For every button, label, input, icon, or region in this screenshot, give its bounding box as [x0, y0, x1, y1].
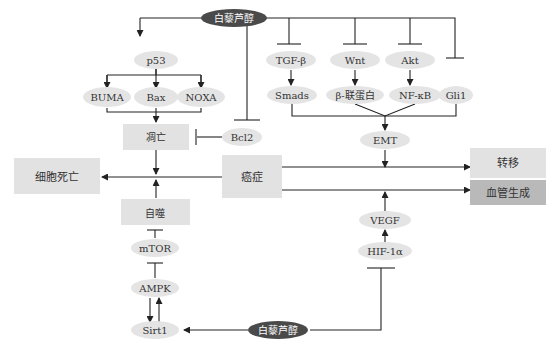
svg-text:Bax: Bax [147, 92, 166, 103]
svg-text:凋亡: 凋亡 [146, 131, 166, 143]
svg-text:mTOR: mTOR [139, 243, 171, 254]
p53-branch [107, 68, 201, 86]
node-cell-death: 细胞死亡 [14, 158, 100, 194]
node-bax: Bax [134, 87, 178, 107]
svg-text:血管生成: 血管生成 [486, 186, 530, 200]
svg-text:AMPK: AMPK [138, 283, 171, 294]
node-vegf: VEGF [359, 211, 411, 229]
svg-text:HIF-1α: HIF-1α [367, 246, 403, 257]
svg-text:转移: 转移 [497, 156, 519, 170]
node-metastasis: 转移 [470, 148, 546, 178]
svg-text:NOXA: NOXA [186, 92, 218, 103]
node-resveratrol-bottom: 白藜芦醇 [248, 321, 308, 339]
node-nfkb: NF-κB [389, 86, 441, 104]
svg-text:BUMA: BUMA [90, 92, 124, 103]
svg-text:白藜芦醇: 白藜芦醇 [258, 324, 298, 336]
node-wnt: Wnt [330, 51, 380, 69]
node-emt: EMT [360, 131, 410, 149]
svg-text:白藜芦醇: 白藜芦醇 [214, 12, 254, 24]
node-angiogenesis: 血管生成 [470, 180, 546, 205]
node-cancer: 癌症 [222, 155, 282, 198]
svg-text:p53: p53 [146, 55, 165, 66]
node-resveratrol-top: 白藜芦醇 [201, 9, 267, 27]
svg-text:β-联蛋白: β-联蛋白 [335, 89, 374, 101]
node-smads: Smads [267, 86, 317, 104]
pathway-diagram: 白藜芦醇 p53 BUMA Bax NOXA 凋亡 Bcl2 细胞死亡 癌症 自… [0, 0, 555, 351]
node-beta-catenin: β-联蛋白 [326, 86, 384, 104]
svg-text:Akt: Akt [400, 55, 418, 66]
svg-text:NF-κB: NF-κB [399, 90, 431, 101]
svg-text:TGF-β: TGF-β [276, 55, 307, 66]
svg-text:Sirt1: Sirt1 [142, 325, 167, 336]
node-p53: p53 [134, 51, 178, 69]
node-sirt1: Sirt1 [131, 321, 179, 339]
svg-text:VEGF: VEGF [369, 215, 400, 226]
node-tgf-beta: TGF-β [266, 51, 316, 69]
node-apoptosis: 凋亡 [123, 124, 189, 150]
svg-text:Bcl2: Bcl2 [231, 132, 254, 143]
node-autophagy: 自噬 [121, 199, 190, 225]
node-buma: BUMA [83, 87, 131, 107]
svg-text:自噬: 自噬 [145, 207, 165, 219]
svg-text:EMT: EMT [373, 135, 398, 146]
node-bcl2: Bcl2 [222, 128, 262, 146]
node-hif1a: HIF-1α [358, 242, 412, 260]
svg-text:Wnt: Wnt [345, 55, 366, 66]
svg-text:Smads: Smads [275, 90, 309, 101]
svg-text:癌症: 癌症 [241, 170, 263, 184]
node-gli1: Gli1 [439, 86, 473, 104]
node-akt: Akt [385, 51, 435, 69]
node-mtor: mTOR [131, 239, 179, 257]
node-ampk: AMPK [131, 279, 179, 297]
svg-text:Gli1: Gli1 [446, 90, 467, 101]
svg-text:细胞死亡: 细胞死亡 [35, 170, 79, 184]
node-noxa: NOXA [177, 87, 225, 107]
